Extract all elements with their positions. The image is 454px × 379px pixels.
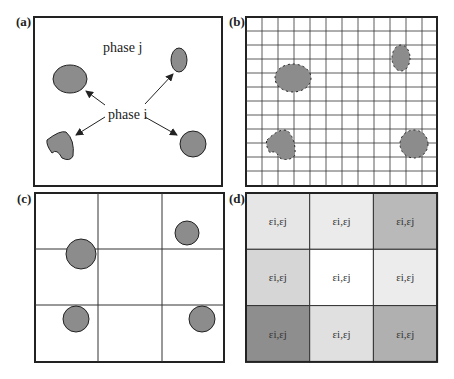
particle [66,239,96,269]
figure-canvas: phase j phase i [0,0,454,379]
strain-cell-label: εi,εj [269,215,287,227]
particle [189,306,215,332]
strain-cell-label: εi,εj [396,328,414,340]
strain-cell-label: εi,εj [269,328,287,340]
particle [175,221,199,245]
strain-cell-label: εi,εj [396,271,414,283]
particle-ellipse [53,65,87,93]
strain-cell-label: εi,εj [332,215,350,227]
phase-j-label: phase j [103,40,142,55]
strain-cell-label: εi,εj [332,271,350,283]
phase-i-label: phase i [108,107,147,122]
particle-circle [180,131,206,157]
panel-b [246,17,437,186]
panel-d: εi,εjεi,εjεi,εjεi,εjεi,εjεi,εjεi,εjεi,εj… [246,193,437,362]
panel-a: phase j phase i [34,17,222,186]
panel-c [35,193,224,362]
particle [63,306,89,332]
strain-cell-label: εi,εj [396,215,414,227]
particle-small-ellipse [171,48,187,72]
strain-cell-label: εi,εj [269,271,287,283]
strain-cell-label: εi,εj [332,328,350,340]
